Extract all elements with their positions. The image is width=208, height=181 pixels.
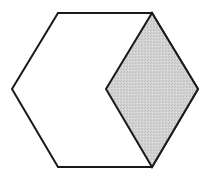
hexagon-diagram (0, 0, 208, 181)
